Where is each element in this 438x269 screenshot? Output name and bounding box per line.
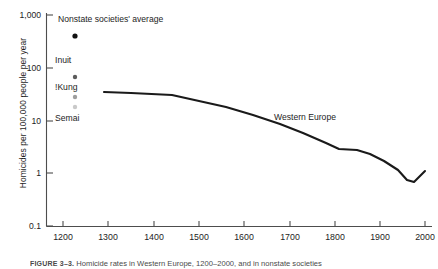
- point-semai: [73, 105, 77, 109]
- point-nonstate-average: [72, 33, 77, 38]
- label-kung: !Kung: [55, 82, 77, 92]
- figure-homicide-rates: Homicides per 100,000 people per year 1,…: [0, 0, 438, 269]
- x-tick-marks: [63, 221, 425, 227]
- point-inuit: [73, 75, 77, 79]
- label-western-europe: Western Europe: [274, 112, 336, 122]
- label-nonstate-average: Nonstate societies' average: [58, 14, 163, 24]
- point-kung: [73, 95, 77, 99]
- plot-canvas: [0, 0, 438, 269]
- label-inuit: Inuit: [55, 55, 71, 65]
- label-semai: Semai: [55, 113, 79, 123]
- figure-caption-text: Homicide rates in Western Europe, 1200–2…: [76, 259, 322, 268]
- figure-caption-label: FIGURE 3–3.: [30, 260, 74, 267]
- series-line-western-europe: [104, 92, 425, 182]
- y-tick-marks: [47, 15, 54, 226]
- figure-caption: FIGURE 3–3. Homicide rates in Western Eu…: [30, 259, 438, 268]
